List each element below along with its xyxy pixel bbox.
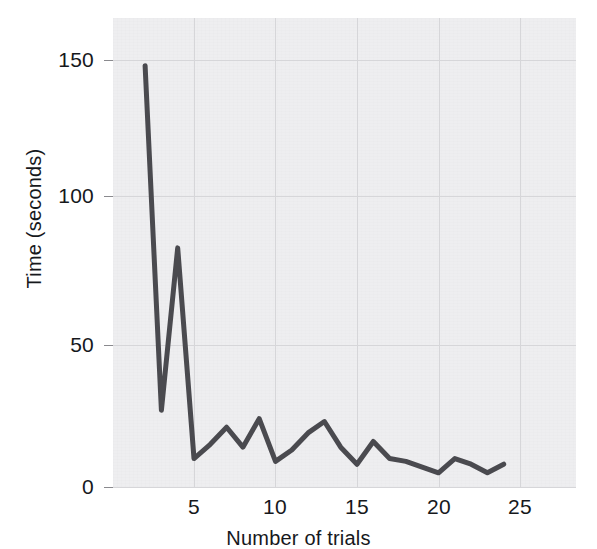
gridline-horizontal-y100 (113, 196, 576, 197)
y-axis-title: Time (seconds) (23, 89, 46, 349)
gridline-vertical-x20 (439, 18, 440, 487)
x-tick-label-25: 25 (490, 495, 550, 519)
chart-figure: 150 100 50 0 5 10 15 20 25 Number of tri… (0, 0, 597, 549)
x-tick-label-5: 5 (164, 495, 224, 519)
y-tick-mark-150 (104, 60, 113, 61)
gridline-horizontal-y0 (113, 487, 576, 488)
y-tick-label-150: 150 (8, 48, 94, 72)
x-tick-label-10: 10 (245, 495, 305, 519)
figure-canvas: 150 100 50 0 5 10 15 20 25 Number of tri… (0, 0, 597, 549)
x-tick-label-20: 20 (409, 495, 469, 519)
gridline-horizontal-y50 (113, 345, 576, 346)
y-tick-mark-100 (104, 196, 113, 197)
y-tick-label-100: 100 (8, 184, 94, 208)
y-tick-mark-50 (104, 345, 113, 346)
x-tick-label-15: 15 (327, 495, 387, 519)
gridline-vertical-x15 (357, 18, 358, 487)
gridline-horizontal-y150 (113, 60, 576, 61)
x-axis-title: Number of trials (0, 527, 597, 549)
gridline-vertical-x10 (275, 18, 276, 487)
gridline-vertical-x5 (194, 18, 195, 487)
y-tick-label-50: 50 (8, 333, 94, 357)
gridline-vertical-x25 (520, 18, 521, 487)
y-tick-label-0: 0 (8, 475, 94, 499)
y-tick-mark-0 (104, 487, 113, 488)
plot-area-background (113, 18, 576, 487)
